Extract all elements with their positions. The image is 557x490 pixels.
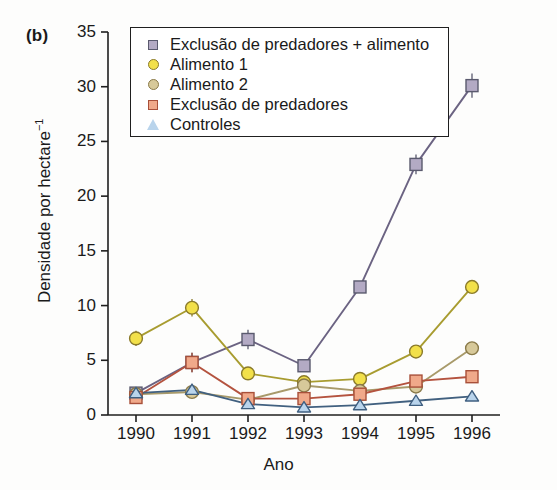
- data-point-square: [410, 158, 422, 170]
- legend-marker-triangle-icon: [142, 119, 164, 130]
- legend-label: Controles: [170, 115, 241, 134]
- data-point-square: [186, 356, 198, 368]
- legend-label: Alimento 2: [170, 75, 248, 94]
- data-point-square: [298, 360, 310, 372]
- chart-legend: Exclusão de predadores + alimentoAliment…: [130, 27, 449, 137]
- legend-swatch: [148, 40, 158, 50]
- data-point-circle: [186, 301, 199, 314]
- legend-item[interactable]: Exclusão de predadores: [142, 95, 448, 115]
- legend-marker-circle-icon: [142, 59, 164, 70]
- legend-label: Alimento 1: [170, 55, 248, 74]
- legend-item[interactable]: Alimento 2: [142, 75, 448, 95]
- figure-panel-b: (b) Densidade por hectare−1 Ano 05101520…: [0, 0, 557, 490]
- legend-marker-square-icon: [142, 40, 164, 50]
- data-point-circle: [466, 281, 479, 294]
- legend-marker-square-icon: [142, 100, 164, 110]
- legend-item[interactable]: Controles: [142, 115, 448, 135]
- data-point-circle: [354, 372, 367, 385]
- data-point-circle: [242, 367, 255, 380]
- legend-triangle-outline: [145, 118, 159, 130]
- data-point-square: [410, 375, 422, 387]
- data-point-circle: [410, 345, 423, 358]
- legend-swatch: [148, 79, 159, 90]
- data-point-circle: [130, 332, 143, 345]
- legend-label: Exclusão de predadores + alimento: [170, 35, 429, 54]
- data-point-circle: [298, 379, 311, 392]
- data-point-square: [466, 80, 478, 92]
- legend-label: Exclusão de predadores: [170, 95, 348, 114]
- data-point-circle: [466, 342, 479, 355]
- data-point-square: [354, 388, 366, 400]
- legend-item[interactable]: Alimento 1: [142, 55, 448, 75]
- data-point-square: [354, 281, 366, 293]
- data-point-square: [466, 371, 478, 383]
- legend-swatch: [147, 119, 159, 130]
- legend-item[interactable]: Exclusão de predadores + alimento: [142, 35, 448, 55]
- data-point-square: [242, 333, 254, 345]
- legend-swatch: [148, 100, 158, 110]
- legend-marker-circle-icon: [142, 79, 164, 90]
- legend-swatch: [148, 59, 159, 70]
